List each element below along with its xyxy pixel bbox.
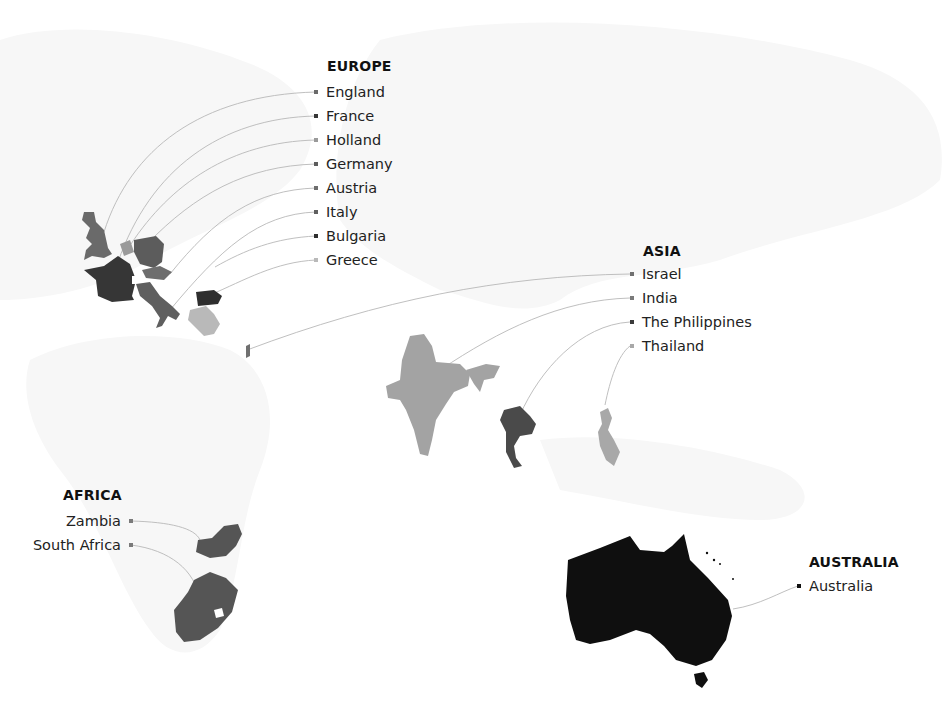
greece-swatch: [314, 258, 318, 262]
germany-swatch: [314, 162, 318, 166]
israel-shape: [246, 344, 250, 358]
legend-item-france[interactable]: France: [314, 107, 374, 125]
thailand-swatch: [630, 344, 634, 348]
background-continents: [0, 23, 942, 653]
asia-title: ASIA: [643, 243, 681, 259]
england-swatch: [314, 90, 318, 94]
legend-item-holland[interactable]: Holland: [314, 131, 381, 149]
africa-title: AFRICA: [63, 487, 122, 503]
australia-swatch: [797, 584, 801, 588]
holland-swatch: [314, 138, 318, 142]
thailand-shape: [500, 406, 536, 468]
india-shape: [386, 334, 470, 456]
legend-item-the-philippines[interactable]: The Philippines: [630, 313, 752, 331]
italy-swatch: [314, 210, 318, 214]
switzerland-gap: [132, 276, 144, 284]
legend-item-greece[interactable]: Greece: [314, 251, 378, 269]
legend-item-italy[interactable]: Italy: [314, 203, 357, 221]
india-east-shape: [466, 364, 500, 392]
legend-item-germany[interactable]: Germany: [314, 155, 393, 173]
austria-swatch: [314, 186, 318, 190]
legend-item-thailand[interactable]: Thailand: [630, 337, 704, 355]
the-philippines-swatch: [630, 320, 634, 324]
india-swatch: [630, 296, 634, 300]
world-map: [0, 0, 950, 724]
austria-shape: [142, 266, 172, 280]
legend-item-australia[interactable]: Australia: [797, 577, 873, 595]
italy-shape: [136, 282, 180, 328]
legend-item-south-africa[interactable]: South Africa: [33, 536, 133, 554]
australia-shape-group: [566, 534, 734, 688]
legend-item-bulgaria[interactable]: Bulgaria: [314, 227, 386, 245]
legend-item-austria[interactable]: Austria: [314, 179, 377, 197]
legend-item-israel[interactable]: Israel: [630, 265, 682, 283]
legend-item-india[interactable]: India: [630, 289, 678, 307]
zambia-swatch: [129, 519, 133, 523]
greece-shape: [188, 306, 220, 336]
legend-item-zambia[interactable]: Zambia: [66, 512, 133, 530]
israel-swatch: [630, 272, 634, 276]
bulgaria-swatch: [314, 234, 318, 238]
bulgaria-shape: [196, 290, 222, 306]
tasmania-shape: [694, 672, 708, 688]
australia-title: AUSTRALIA: [809, 554, 899, 570]
europe-title: EUROPE: [327, 58, 392, 74]
france-swatch: [314, 114, 318, 118]
south-africa-swatch: [129, 543, 133, 547]
legend-item-england[interactable]: England: [314, 83, 385, 101]
